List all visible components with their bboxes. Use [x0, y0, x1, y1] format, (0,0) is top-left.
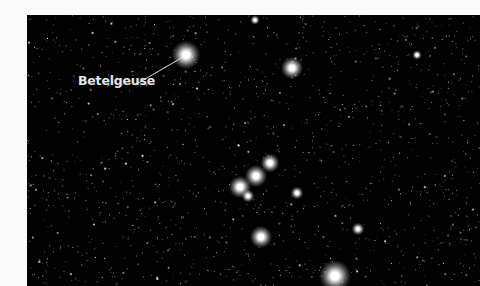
betelgeuse-label: Betelgeuse [78, 73, 155, 88]
star-field-photo [27, 15, 480, 286]
star-field-canvas [27, 15, 480, 286]
